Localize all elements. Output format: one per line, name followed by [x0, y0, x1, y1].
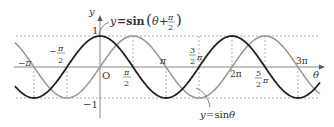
svg-text:−: −	[49, 46, 57, 56]
x-tick-two-pi: 2π	[230, 69, 242, 79]
svg-text:5: 5	[256, 69, 261, 78]
svg-text:): )	[176, 11, 182, 29]
svg-text:2: 2	[168, 23, 173, 32]
svg-text:π: π	[167, 13, 174, 22]
x-tick-minus-pi: −π	[18, 58, 33, 68]
x-tick-five-half-pi: 5 2 π	[255, 69, 269, 89]
svg-text:π: π	[196, 53, 203, 62]
svg-text:2: 2	[58, 56, 63, 65]
svg-text:y: y	[199, 109, 206, 120]
svg-text:2: 2	[190, 57, 195, 66]
svg-text:=sin: =sin	[117, 15, 145, 28]
svg-text:3: 3	[190, 46, 195, 55]
svg-text:π: π	[57, 44, 64, 53]
sine-shift-chart: y 1 −1 O −π − π 2 π 2 π 3 2 π 2π 5 2 π 3…	[0, 0, 334, 127]
y-axis-arrow-icon	[98, 15, 103, 21]
curve2-annotation: y =sin θ	[199, 109, 235, 120]
x-tick-three-pi: 3π	[296, 56, 308, 66]
svg-text:π: π	[123, 68, 130, 77]
y-tick-minus-1: −1	[83, 99, 98, 110]
svg-text:2: 2	[124, 79, 129, 88]
svg-text:θ: θ	[152, 15, 159, 28]
x-tick-half-pi: π 2	[123, 68, 131, 88]
x-axis-label: θ	[313, 69, 319, 80]
svg-text:=sin: =sin	[206, 109, 230, 120]
x-tick-minus-half-pi: − π 2	[49, 44, 65, 65]
curve1-annotation: y =sin ( θ + π 2 )	[109, 11, 182, 32]
x-tick-pi: π	[159, 56, 167, 66]
svg-text:y: y	[109, 15, 117, 28]
svg-text:π: π	[262, 76, 269, 85]
svg-text:θ: θ	[229, 109, 235, 120]
origin-label: O	[102, 70, 110, 81]
svg-text:2: 2	[256, 80, 261, 89]
y-tick-1: 1	[92, 25, 98, 36]
svg-text:+: +	[159, 15, 168, 28]
y-axis-label: y	[88, 6, 95, 17]
svg-text:(: (	[146, 11, 152, 29]
x-axis-arrow-icon	[319, 65, 325, 70]
